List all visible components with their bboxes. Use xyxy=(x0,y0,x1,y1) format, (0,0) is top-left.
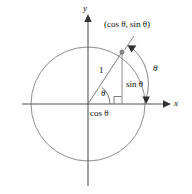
inner-angle-label: θ xyxy=(101,89,105,98)
terminal-point-label: (cos θ, sin θ) xyxy=(104,20,150,29)
outer-angle-arc xyxy=(132,48,149,100)
right-angle-icon xyxy=(114,97,122,105)
x-axis-arrowhead xyxy=(163,100,171,107)
terminal-point-marker xyxy=(120,50,124,54)
y-axis-arrowhead xyxy=(84,14,91,22)
y-axis-label: y xyxy=(83,4,87,13)
x-axis-label: x xyxy=(174,99,178,108)
outer-angle-label: θ xyxy=(153,64,157,73)
cos-label: cos θ xyxy=(90,109,109,118)
figure-canvas xyxy=(0,0,192,194)
radius-length-label: 1 xyxy=(99,66,104,75)
outer-arc-arrowhead-bottom xyxy=(142,97,149,105)
unit-circle-figure: y x (cos θ, sin θ) 1 θ θ cos θ sin θ xyxy=(0,0,192,194)
sin-label: sin θ xyxy=(126,80,143,89)
